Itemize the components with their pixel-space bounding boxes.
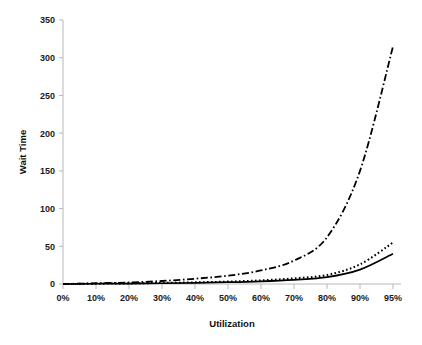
y-tick-label: 250 xyxy=(40,91,55,101)
y-axis-title: Wait Time xyxy=(17,130,28,174)
x-tick-label: 10% xyxy=(87,293,105,303)
x-tick-label: 50% xyxy=(219,293,237,303)
x-tick-label: 0% xyxy=(56,293,69,303)
chart-container: 050100150200250300350 0%10%20%30%40%50%6… xyxy=(0,0,422,345)
y-tick-label: 0 xyxy=(50,279,55,289)
x-tick-label: 80% xyxy=(318,293,336,303)
x-tick-label: 70% xyxy=(285,293,303,303)
x-axis-title: Utilization xyxy=(209,318,255,329)
x-tick-label: 20% xyxy=(120,293,138,303)
y-tick-label: 350 xyxy=(40,15,55,25)
y-tick-label: 100 xyxy=(40,204,55,214)
x-tick-label: 60% xyxy=(252,293,270,303)
y-tick-label: 50 xyxy=(45,242,55,252)
y-tick-label: 150 xyxy=(40,166,55,176)
x-tick-label: 30% xyxy=(153,293,171,303)
x-tick-label: 40% xyxy=(186,293,204,303)
x-tick-label: 95% xyxy=(384,293,402,303)
wait-time-vs-utilization-chart: 050100150200250300350 0%10%20%30%40%50%6… xyxy=(0,0,422,345)
x-tick-label: 90% xyxy=(351,293,369,303)
y-tick-label: 300 xyxy=(40,53,55,63)
y-tick-label: 200 xyxy=(40,129,55,139)
